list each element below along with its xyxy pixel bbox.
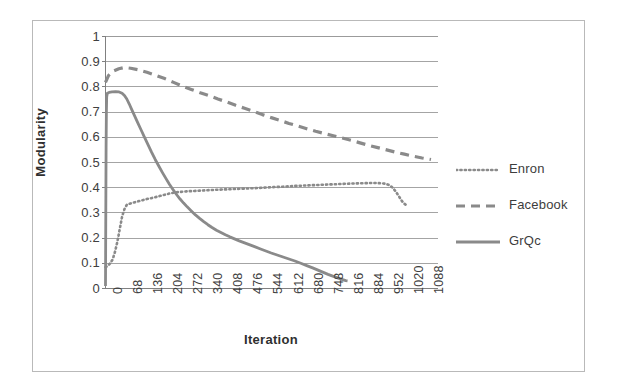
- x-tick-label: 136: [152, 273, 164, 294]
- x-tick-label: 272: [192, 273, 204, 294]
- x-tick-label: 1088: [433, 265, 445, 294]
- x-tick-label: 952: [393, 273, 405, 294]
- legend-item-facebook[interactable]: Facebook: [456, 186, 586, 222]
- x-tick-label: 408: [232, 273, 244, 294]
- x-tick-label: 816: [353, 273, 365, 294]
- x-tick-label: 748: [333, 273, 345, 294]
- modularity-vs-iteration-chart: 00.10.20.30.40.50.60.70.80.91 0681362042…: [0, 0, 621, 392]
- x-tick-label: 612: [293, 273, 305, 294]
- legend-key-dashed-icon: [456, 198, 500, 210]
- x-tick-label: 340: [212, 273, 224, 294]
- chart-legend: EnronFacebookGrQc: [456, 150, 586, 258]
- x-tick-label: 476: [252, 273, 264, 294]
- legend-item-grqc[interactable]: GrQc: [456, 222, 586, 258]
- x-tick-label: 1020: [413, 265, 425, 294]
- legend-label: Enron: [509, 161, 545, 176]
- x-tick-label: 544: [272, 273, 284, 294]
- legend-key-dotted-icon: [456, 162, 500, 174]
- legend-label: GrQc: [509, 233, 541, 248]
- legend-item-enron[interactable]: Enron: [456, 150, 586, 186]
- legend-key-solid-icon: [456, 234, 500, 246]
- x-axis-title: Iteration: [105, 332, 437, 347]
- x-tick-label: 204: [172, 273, 184, 294]
- x-tick-label: 0: [112, 287, 124, 294]
- legend-label: Facebook: [509, 197, 568, 212]
- x-tick-label: 884: [373, 273, 385, 294]
- x-tick-label: 68: [132, 280, 144, 294]
- y-axis-title: Modularity: [33, 108, 48, 177]
- x-tick-label: 680: [313, 273, 325, 294]
